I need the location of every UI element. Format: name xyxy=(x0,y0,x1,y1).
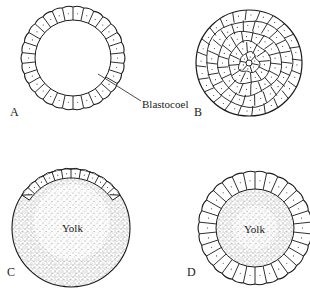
blastocoel-label: Blastocoel xyxy=(142,98,188,110)
panel-label-d: D xyxy=(187,265,196,279)
panel-label-b: B xyxy=(194,105,202,119)
yolk-label-d: Yolk xyxy=(244,223,265,235)
panel-a xyxy=(21,6,125,109)
panel-label-a: A xyxy=(10,105,19,119)
yolk-label-c: Yolk xyxy=(62,222,83,234)
panel-label-c: C xyxy=(7,265,15,279)
blastula-diagram: A Blastocoel B Yolk C Yolk D xyxy=(0,0,310,290)
panel-b xyxy=(196,10,302,116)
